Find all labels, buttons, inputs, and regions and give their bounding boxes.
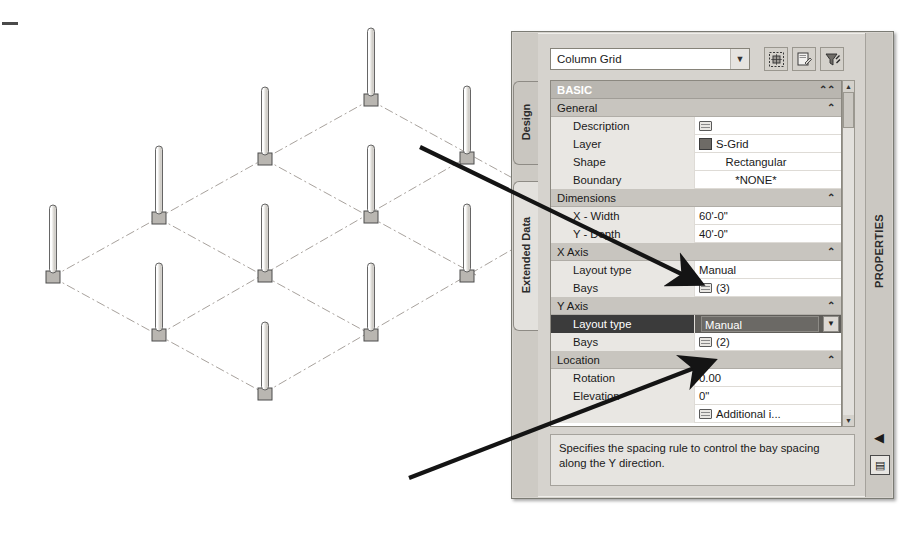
tab-extended-data-label: Extended Data	[520, 180, 532, 330]
group-header-x-axis[interactable]: X Axis⌃	[551, 243, 841, 261]
property-label: Shape	[551, 153, 695, 171]
chevron-up-icon[interactable]: ⌃	[827, 246, 841, 257]
scroll-up-icon[interactable]: ▲	[843, 81, 854, 92]
edit-style-icon[interactable]	[792, 47, 816, 71]
group-header-label: Location	[557, 354, 600, 366]
chevron-up-icon[interactable]: ⌃	[827, 354, 841, 365]
group-header-general[interactable]: General⌃	[551, 99, 841, 117]
property-value-text: 0"	[699, 387, 709, 405]
tab-design-label: Design	[520, 80, 532, 164]
property-label: Bays	[551, 279, 695, 297]
palette-toolbar: Column Grid ▼	[550, 48, 857, 72]
palette-title: PROPERTIES	[873, 206, 885, 296]
group-header-dimensions[interactable]: Dimensions⌃	[551, 189, 841, 207]
property-value-cell[interactable]: 40'-0"	[695, 225, 841, 243]
property-row-rotation[interactable]: Rotation0.00	[551, 369, 841, 387]
chevron-up-icon[interactable]: ⌃	[827, 192, 841, 203]
scrollbar-thumb[interactable]	[843, 92, 854, 128]
property-row-layer[interactable]: LayerS-Grid	[551, 135, 841, 153]
group-header-label: General	[557, 102, 597, 114]
property-value-cell[interactable]: S-Grid	[695, 135, 841, 153]
section-header-basic[interactable]: BASIC ⌃⌃	[551, 81, 841, 99]
chevron-down-icon[interactable]: ▼	[730, 49, 749, 69]
chevron-up-double-icon[interactable]: ⌃⌃	[819, 84, 841, 95]
property-value-text: (2)	[716, 333, 730, 351]
properties-palette: Design Extended Data ✕ Column Grid ▼	[511, 31, 894, 499]
picker-icon[interactable]	[699, 337, 712, 347]
chevron-up-icon[interactable]: ⌃	[827, 300, 841, 311]
group-header-label: Dimensions	[557, 192, 616, 204]
group-header-y-axis[interactable]: Y Axis⌃	[551, 297, 841, 315]
property-value-cell[interactable]: Manual▼	[695, 315, 841, 333]
corner-tick-mark	[2, 22, 18, 25]
property-label: Elevation	[551, 387, 695, 405]
picker-icon[interactable]	[699, 409, 712, 419]
property-value-text: (3)	[716, 279, 730, 297]
group-header-location[interactable]: Location⌃	[551, 351, 841, 369]
property-row-boundary[interactable]: Boundary*NONE*	[551, 171, 841, 189]
property-value-cell[interactable]: 0"	[695, 387, 841, 405]
property-row-bays[interactable]: Bays(3)	[551, 279, 841, 297]
property-label: Y - Depth	[551, 225, 695, 243]
property-value-text: 40'-0"	[699, 225, 728, 243]
property-label: Layout type	[551, 315, 695, 333]
property-row-additional[interactable]: Additional i...	[551, 405, 841, 423]
property-label: Boundary	[551, 171, 695, 189]
property-label: Layer	[551, 135, 695, 153]
property-value-cell[interactable]: *NONE*	[695, 171, 841, 189]
property-grid-scrollbar[interactable]: ▲ ▼	[842, 80, 855, 427]
property-value-cell[interactable]: (3)	[695, 279, 841, 297]
section-header-basic-label: BASIC	[557, 84, 592, 96]
palette-right-bar: PROPERTIES ◀ ▤	[865, 33, 892, 497]
property-value-cell[interactable]: 0.00	[695, 369, 841, 387]
property-value-cell[interactable]: Rectangular	[695, 153, 841, 171]
property-value-text: *NONE*	[735, 171, 776, 189]
property-value-cell[interactable]: Additional i...	[695, 405, 841, 423]
property-label: Rotation	[551, 369, 695, 387]
property-row-elevation[interactable]: Elevation0"	[551, 387, 841, 405]
quick-select-icon[interactable]	[820, 47, 844, 71]
property-label: Layout type	[551, 261, 695, 279]
property-label: X - Width	[551, 207, 695, 225]
property-row-layout-type[interactable]: Layout typeManual	[551, 261, 841, 279]
property-label: Description	[551, 117, 695, 135]
style-select[interactable]: Column Grid ▼	[550, 48, 750, 70]
style-select-value: Column Grid	[551, 53, 730, 65]
property-value-cell[interactable]	[695, 117, 841, 135]
palette-tab-strip: Design Extended Data	[513, 33, 538, 497]
property-row-y-layout-type[interactable]: Layout typeManual▼	[551, 315, 841, 333]
property-value-cell[interactable]: Manual	[695, 261, 841, 279]
chevron-down-icon[interactable]: ▼	[823, 316, 839, 332]
tab-design[interactable]: Design	[513, 81, 538, 165]
property-row-shape[interactable]: ShapeRectangular	[551, 153, 841, 171]
chevron-up-icon[interactable]: ⌃	[827, 102, 841, 113]
layout-type-combo-value[interactable]: Manual	[701, 316, 819, 332]
property-value-text: Rectangular	[726, 153, 787, 171]
select-similar-icon[interactable]	[764, 47, 788, 71]
scroll-down-icon[interactable]: ▼	[843, 415, 854, 426]
description-pane: Specifies the spacing rule to control th…	[550, 434, 855, 486]
property-value-text: Additional i...	[716, 405, 781, 423]
property-row-description[interactable]: Description	[551, 117, 841, 135]
property-label: Bays	[551, 333, 695, 351]
property-value-cell[interactable]: 60'-0"	[695, 207, 841, 225]
property-grid: BASIC ⌃⌃ General⌃DescriptionLayerS-GridS…	[550, 80, 842, 427]
property-value-text: S-Grid	[716, 135, 749, 153]
group-header-label: X Axis	[557, 246, 588, 258]
picker-icon[interactable]	[699, 283, 712, 293]
layer-color-swatch-icon	[699, 138, 712, 150]
tab-extended-data[interactable]: Extended Data	[513, 181, 538, 331]
menu-icon[interactable]: ▤	[870, 455, 890, 475]
property-value-text: 60'-0"	[699, 207, 728, 225]
property-row-x-width[interactable]: X - Width60'-0"	[551, 207, 841, 225]
property-row-bays[interactable]: Bays(2)	[551, 333, 841, 351]
property-value-cell[interactable]: (2)	[695, 333, 841, 351]
property-label	[551, 405, 695, 423]
property-row-y-depth[interactable]: Y - Depth40'-0"	[551, 225, 841, 243]
collapse-icon[interactable]: ◀	[870, 428, 888, 446]
picker-icon[interactable]	[699, 121, 712, 131]
group-header-label: Y Axis	[557, 300, 588, 312]
property-value-text: Manual	[699, 261, 736, 279]
property-value-text: 0.00	[699, 369, 721, 387]
